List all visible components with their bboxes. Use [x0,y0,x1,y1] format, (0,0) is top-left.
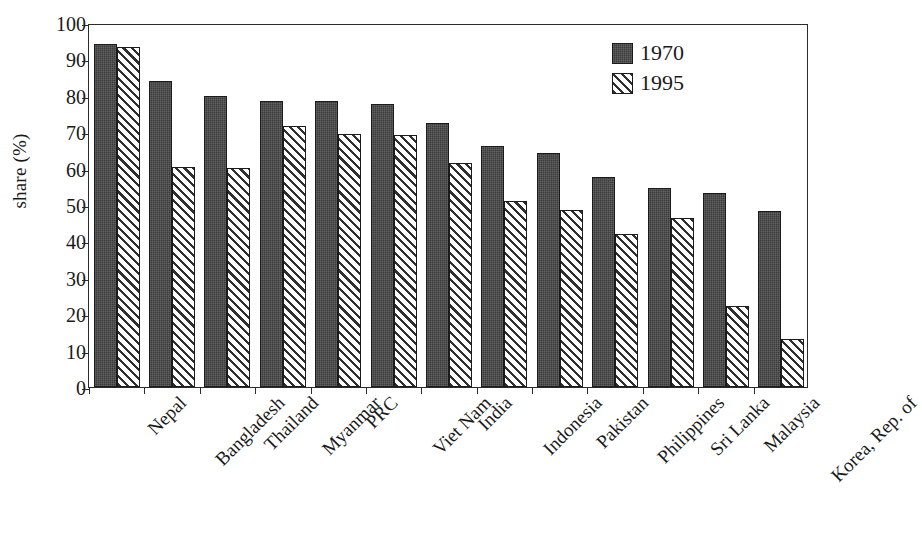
bar-group [537,25,583,387]
bar-group [371,25,417,387]
y-axis-tick-mark [82,389,89,390]
bar-1970 [260,101,283,387]
legend-swatch-1995 [612,73,633,94]
legend-label: 1995 [640,72,684,94]
y-axis-tick-mark [82,98,89,99]
bar-1995 [449,163,472,387]
y-axis-tick-mark [82,280,89,281]
bar-group [204,25,250,387]
y-axis-tick-label: 90 [40,50,86,70]
y-axis-tick-mark [82,353,89,354]
y-axis-tick-label: 20 [40,305,86,325]
bar-1995 [394,135,417,387]
x-axis-category-label: Indonesia [539,392,607,460]
bar-group [758,25,804,387]
bar-1970 [481,146,504,387]
bar-group [149,25,195,387]
bar-group [315,25,361,387]
bar-group [94,25,140,387]
y-axis-tick-label: 80 [40,87,86,107]
bar-1970 [703,193,726,387]
bar-1970 [758,211,781,387]
y-axis-tick-label: 10 [40,342,86,362]
bar-1970 [537,153,560,387]
bar-1995 [560,210,583,387]
bar-1995 [615,234,638,387]
bar-1970 [315,101,338,387]
bar-1995 [726,306,749,387]
y-axis-tick-mark [82,316,89,317]
legend: 19701995 [612,38,762,98]
bar-1970 [426,123,449,387]
bar-1995 [172,167,195,387]
legend-label: 1970 [640,42,684,64]
bar-1995 [781,339,804,387]
y-axis-tick-label: 70 [40,123,86,143]
x-axis-category-label: Nepal [143,392,191,440]
y-axis-tick-mark [82,243,89,244]
bar-1970 [149,81,172,387]
bar-1995 [338,134,361,387]
bar-1995 [283,126,306,387]
y-axis-tick-mark [82,207,89,208]
bar-1970 [94,44,117,387]
bar-1995 [227,168,250,387]
y-axis-tick-mark [82,61,89,62]
y-axis-tick-label: 100 [40,14,86,34]
y-axis-tick-label: 50 [40,196,86,216]
legend-swatch-1970 [612,43,633,64]
y-axis-tick-labels: 1009080706050403020100 [16,0,86,548]
bar-1970 [204,96,227,387]
y-axis-tick-label: 60 [40,160,86,180]
y-axis-tick-label: 40 [40,232,86,252]
y-axis-tick-label: 30 [40,269,86,289]
bar-1995 [671,218,694,387]
y-axis-tick-mark [82,25,89,26]
bar-group [260,25,306,387]
x-axis-category-label: Korea, Rep. of [827,392,922,487]
x-axis-category-labels: NepalBangladeshThailandMyanmarPRCViet Na… [88,392,836,548]
y-axis-tick-label: 0 [40,378,86,398]
y-axis-tick-mark [82,171,89,172]
legend-item: 1970 [612,38,762,68]
y-axis-tick-mark [82,134,89,135]
bar-1995 [117,47,140,387]
bar-1970 [592,177,615,387]
bar-1995 [504,201,527,387]
legend-item: 1995 [612,68,762,98]
bar-group [426,25,472,387]
bar-1970 [648,188,671,387]
bar-1970 [371,104,394,387]
bar-group [481,25,527,387]
